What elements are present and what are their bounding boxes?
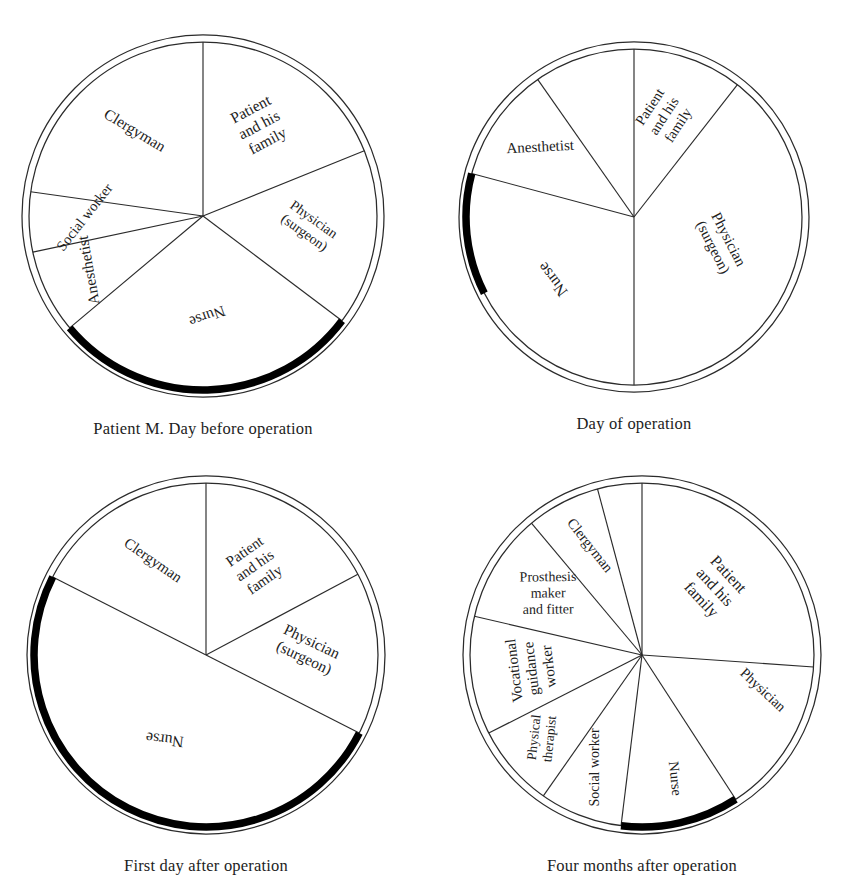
pie-svg-chart-day-before: Patientand hisfamilyPhysician(surgeon)Nu… — [8, 21, 398, 411]
pie-chart-figure: Patientand hisfamilyPhysician(surgeon)Nu… — [0, 0, 844, 891]
slice-label-nurse: Nurse — [534, 259, 571, 300]
slice-label-physician-surgeon: Physician(surgeon) — [273, 620, 343, 679]
slice-label-group-clergyman: Clergyman — [121, 535, 185, 586]
slice-label-physician: Physician — [737, 665, 790, 716]
slice-divider-clergyman — [31, 192, 203, 216]
pie-chart-chart-four-months-after: Patientand hisfamilyPhysicianNurseSocial… — [449, 462, 835, 848]
slice-label-group-physician-surgeon: Physician(surgeon) — [692, 210, 749, 278]
chart-caption-chart-day-before: Patient M. Day before operation — [8, 419, 398, 439]
slice-label-group-prosthesis-maker-and-fitter: Prosthesismakerand fitter — [519, 569, 576, 617]
slice-label-group-anesthetist: Anesthetist — [74, 234, 103, 306]
slice-label-physician-surgeon: Physician(surgeon) — [692, 210, 749, 278]
slice-divider-physician — [642, 655, 814, 667]
slice-label-social-worker: Social worker — [587, 728, 602, 806]
slice-label-group-patient-and-family: Patientand hisfamily — [679, 552, 751, 623]
slice-label-group-physician-surgeon: Physician(surgeon) — [277, 197, 340, 255]
slice-label-group-clergyman: Clergyman — [101, 105, 169, 155]
slice-label-group-physician: Physician — [737, 665, 790, 716]
slice-label-group-physician-surgeon: Physician(surgeon) — [273, 620, 343, 679]
slice-label-patient-and-family: Patientand hisfamily — [222, 532, 286, 598]
slice-label-group-clergyman: Clergyman — [564, 515, 617, 576]
slice-label-physician-surgeon: Physician(surgeon) — [277, 197, 340, 255]
slice-label-clergyman: Clergyman — [121, 535, 185, 586]
slice-divider-anesthetist — [472, 174, 634, 217]
slice-label-anesthetist: Anesthetist — [506, 137, 575, 157]
slice-label-vocational-guidance-worker: Vocationalguidanceworker — [502, 634, 560, 704]
slice-label-nurse: Nurse — [666, 760, 686, 796]
slice-label-group-physical-therapist: Physicaltherapist — [524, 713, 559, 763]
slice-label-group-patient-and-family: Patientand hisfamily — [632, 85, 696, 147]
pie-svg-chart-first-day-after: Patientand hisfamilyPhysician(surgeon)Nu… — [13, 462, 399, 848]
slice-label-patient-and-family: Patientand hisfamily — [679, 552, 751, 623]
pie-chart-chart-day-of: Patientand hisfamilyPhysician(surgeon)Nu… — [445, 28, 823, 406]
slice-label-group-patient-and-family: Patientand hisfamily — [227, 91, 291, 159]
slice-label-nurse: Nurse — [145, 729, 185, 751]
slice-label-patient-and-family: Patientand hisfamily — [632, 85, 696, 147]
slice-label-group-nurse: Nurse — [534, 259, 571, 300]
pie-chart-chart-day-before: Patientand hisfamilyPhysician(surgeon)Nu… — [8, 21, 398, 411]
nurse-highlight-arc — [621, 799, 736, 827]
slice-divider-nurse — [642, 655, 736, 799]
slice-label-group-social-worker: Social worker — [587, 728, 602, 806]
slice-label-group-vocational-guidance-worker: Vocationalguidanceworker — [502, 634, 560, 704]
pie-svg-chart-day-of: Patientand hisfamilyPhysician(surgeon)Nu… — [445, 28, 823, 406]
slice-label-group-patient-and-family: Patientand hisfamily — [222, 532, 286, 598]
chart-caption-chart-day-of: Day of operation — [445, 414, 823, 434]
slice-label-group-nurse: Nurse — [145, 729, 185, 751]
slice-label-physical-therapist: Physicaltherapist — [524, 713, 559, 763]
slice-label-anesthetist: Anesthetist — [74, 234, 103, 306]
slice-label-clergyman: Clergyman — [564, 515, 617, 576]
slice-label-group-nurse: Nurse — [187, 303, 228, 331]
slice-label-nurse: Nurse — [187, 303, 228, 331]
slice-divider-nurse — [206, 655, 359, 733]
pie-svg-chart-four-months-after: Patientand hisfamilyPhysicianNurseSocial… — [449, 462, 835, 848]
slice-label-patient-and-family: Patientand hisfamily — [227, 91, 291, 159]
slice-label-prosthesis-maker-and-fitter: Prosthesismakerand fitter — [519, 569, 576, 617]
nurse-highlight-arc — [34, 577, 359, 827]
slice-divider-prosthesis-maker-and-fitter — [474, 616, 642, 655]
chart-caption-chart-four-months-after: Four months after operation — [449, 856, 835, 876]
chart-caption-chart-first-day-after: First day after operation — [13, 856, 399, 876]
slice-label-clergyman: Clergyman — [101, 105, 169, 155]
pie-chart-chart-first-day-after: Patientand hisfamilyPhysician(surgeon)Nu… — [13, 462, 399, 848]
slice-label-group-nurse: Nurse — [666, 760, 686, 796]
slice-divider-clergyman — [53, 577, 206, 655]
slice-divider-physician-surgeon — [203, 151, 364, 216]
slice-label-group-anesthetist: Anesthetist — [506, 137, 575, 157]
nurse-highlight-arc — [70, 321, 342, 390]
